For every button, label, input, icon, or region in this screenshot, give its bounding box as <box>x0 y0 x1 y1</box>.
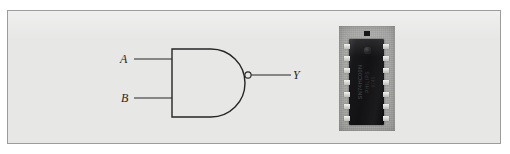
ic-pin <box>383 44 389 49</box>
input-a-label: A <box>120 53 128 65</box>
input-b-label: B <box>121 92 129 104</box>
ic-pin <box>344 104 350 109</box>
ic-pin <box>383 104 389 109</box>
figure-root: A B Y <box>0 0 510 154</box>
nand-gate-group: A B Y <box>8 11 502 145</box>
ic-orientation-tab <box>364 31 370 36</box>
ic-pin <box>344 116 350 121</box>
ic-pin <box>383 116 389 121</box>
inversion-bubble-icon <box>245 72 251 78</box>
ic-chip-photo: SN74HC00N PHILIPS 9740 <box>339 26 395 131</box>
ic-pin <box>383 56 389 61</box>
nand-gate-svg <box>8 11 502 145</box>
nand-gate-body <box>172 49 245 117</box>
ic-dip-package-body: SN74HC00N PHILIPS 9740 <box>349 39 384 125</box>
ic-pin <box>344 68 350 73</box>
ic-pin1-dimple-icon <box>364 47 371 54</box>
ic-pin <box>383 80 389 85</box>
ic-pin <box>344 80 350 85</box>
ic-pin <box>344 44 350 49</box>
ic-pin <box>344 92 350 97</box>
ic-pin <box>383 92 389 97</box>
figure-panel: A B Y <box>7 10 501 144</box>
output-y-label: Y <box>293 69 300 81</box>
ic-pin <box>383 68 389 73</box>
ic-pin <box>344 56 350 61</box>
